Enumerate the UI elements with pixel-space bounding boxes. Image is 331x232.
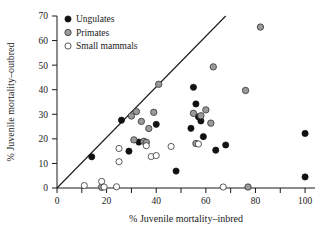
- data-point: [245, 184, 251, 190]
- x-tick-label-60: 60: [201, 196, 211, 206]
- legend-marker-primates: [65, 29, 71, 35]
- data-point: [151, 109, 157, 115]
- y-tick-label-10: 10: [39, 159, 49, 169]
- y-tick-label-70: 70: [39, 11, 49, 21]
- legend-label-ungulates: Ungulates: [76, 14, 115, 24]
- data-point: [153, 152, 159, 158]
- data-point: [133, 108, 139, 114]
- data-point: [242, 87, 248, 93]
- x-tick-label-40: 40: [151, 196, 161, 206]
- x-tick-label-20: 20: [102, 196, 112, 206]
- data-point: [118, 117, 124, 123]
- data-point: [131, 137, 137, 143]
- data-point: [116, 145, 122, 151]
- y-tick-label-40: 40: [39, 85, 49, 95]
- data-point: [126, 148, 132, 154]
- y-tick-label-60: 60: [39, 36, 49, 46]
- data-point: [257, 24, 263, 30]
- y-tick-label-50: 50: [39, 61, 49, 71]
- x-tick-label-80: 80: [251, 196, 261, 206]
- data-point: [213, 147, 219, 153]
- data-point: [195, 141, 201, 147]
- y-axis-ticks: 010203040506070: [39, 11, 58, 193]
- series-small-mammals: [81, 141, 226, 190]
- data-point: [193, 101, 199, 107]
- data-point: [101, 184, 107, 190]
- data-point: [156, 81, 162, 87]
- data-point: [198, 113, 204, 119]
- data-point: [168, 143, 174, 149]
- data-point: [190, 110, 196, 116]
- data-point: [223, 142, 229, 148]
- data-point: [138, 118, 144, 124]
- x-axis-ticks: 020406080100: [55, 188, 313, 206]
- chart-canvas: 010203040506070 020406080100 UngulatesPr…: [0, 0, 331, 232]
- x-tick-label-100: 100: [298, 196, 313, 206]
- data-point: [89, 154, 95, 160]
- y-axis-title: % Juvenile mortality–outbred: [5, 43, 16, 162]
- data-point: [210, 64, 216, 70]
- data-point: [173, 168, 179, 174]
- data-point: [116, 159, 122, 165]
- legend-label-small-mammals: Small mammals: [76, 41, 138, 51]
- data-point: [143, 143, 149, 149]
- data-point: [200, 134, 206, 140]
- y-tick-label-20: 20: [39, 134, 49, 144]
- data-point: [208, 120, 214, 126]
- data-point: [188, 125, 194, 131]
- legend-label-primates: Primates: [76, 28, 110, 38]
- legend-marker-small-mammals: [65, 43, 71, 49]
- chart-legend: UngulatesPrimatesSmall mammals: [65, 14, 138, 51]
- data-point: [146, 125, 152, 131]
- y-tick-label-30: 30: [39, 110, 49, 120]
- y-tick-label-0: 0: [43, 183, 48, 193]
- data-point: [113, 184, 119, 190]
- data-point: [302, 174, 308, 180]
- data-point: [220, 184, 226, 190]
- data-point: [190, 84, 196, 90]
- x-axis-title: % Juvenile mortality–inbred: [129, 213, 243, 224]
- scatter-plot-figure: 010203040506070 020406080100 UngulatesPr…: [0, 0, 331, 232]
- series-ungulates: [89, 84, 309, 180]
- data-point: [302, 130, 308, 136]
- legend-marker-ungulates: [65, 16, 71, 22]
- data-point: [81, 182, 87, 188]
- x-tick-label-0: 0: [55, 196, 60, 206]
- data-point: [203, 107, 209, 113]
- data-point: [153, 121, 159, 127]
